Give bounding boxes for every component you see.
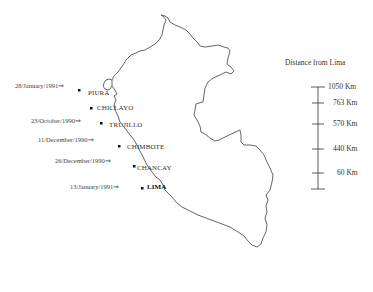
tick-label-1050: 1050 Km	[328, 82, 356, 91]
date-label-piura: 28/January/1991⇒	[15, 82, 64, 90]
city-label-chancay: CHANCAY	[137, 164, 172, 172]
city-label-chiclayo: CHICLAYO	[97, 104, 133, 112]
date-label-chancay: 26/December/1990⇒	[55, 157, 111, 165]
tick-label-763: 763 Km	[333, 98, 357, 107]
date-label-chimbote: 11/December/1990⇒	[38, 136, 94, 144]
tick-label-60: 60 Km	[337, 168, 358, 177]
marker-chimbote	[118, 145, 121, 148]
city-label-trujillo: TRUJILLO	[109, 121, 142, 129]
distance-scale	[311, 87, 325, 189]
marker-piura	[78, 89, 81, 92]
marker-chiclayo	[90, 107, 93, 110]
tick-label-440: 440 Km	[333, 144, 357, 153]
legend-title: Distance from Lima	[285, 58, 345, 67]
city-label-chimbote: CHIMBOTE	[127, 143, 164, 151]
marker-chancay	[133, 165, 136, 168]
date-label-trujillo: 23/October/1990⇒	[31, 117, 81, 125]
city-label-lima: LIMA	[147, 183, 166, 191]
peru-map	[0, 0, 373, 292]
date-label-lima: 13/January/1991⇒	[70, 183, 119, 191]
tick-label-570: 570 Km	[333, 119, 357, 128]
peru-outline	[112, 15, 273, 247]
marker-trujillo	[100, 122, 103, 125]
marker-lima	[141, 187, 144, 190]
city-label-piura: PIURA	[88, 89, 110, 97]
